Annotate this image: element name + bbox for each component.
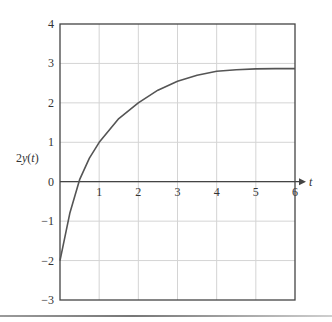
x-axis-arrow-icon	[299, 178, 306, 185]
x-tick-label: 6	[292, 185, 298, 199]
x-tick-labels: 123456	[96, 185, 298, 199]
page-divider	[0, 315, 332, 317]
x-axis-label: t	[309, 175, 313, 189]
y-tick-label: 1	[48, 135, 54, 149]
y-axis-label: 2y(t)	[16, 151, 39, 165]
y-tick-label: −3	[41, 293, 54, 307]
y-tick-label: −1	[41, 214, 54, 228]
y-tick-label: 3	[48, 56, 54, 70]
grid-lines	[60, 24, 295, 300]
x-tick-label: 3	[175, 185, 181, 199]
y-tick-labels: 43210−1−2−3	[41, 17, 54, 307]
chart-figure: 123456 43210−1−2−3 t 2y(t)	[0, 0, 332, 322]
y-tick-label: 0	[48, 175, 54, 189]
y-tick-label: −2	[41, 254, 54, 268]
x-tick-label: 2	[135, 185, 141, 199]
x-tick-label: 1	[96, 185, 102, 199]
x-tick-label: 5	[253, 185, 259, 199]
y-tick-label: 2	[48, 96, 54, 110]
y-tick-label: 4	[48, 17, 54, 31]
x-tick-label: 4	[214, 185, 220, 199]
